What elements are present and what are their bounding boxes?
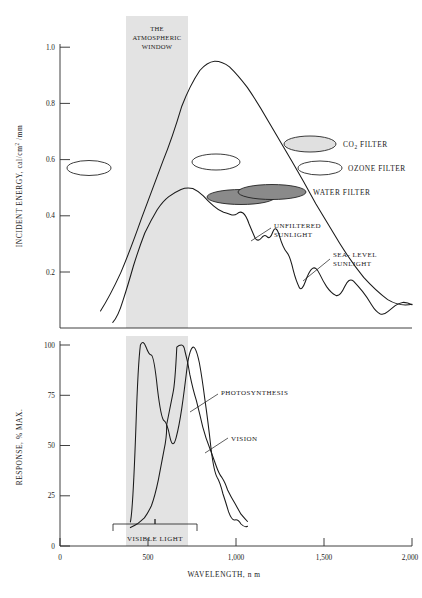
bottom-chart-y-axis-title: RESPONSE, % MAX. [15, 409, 24, 486]
xticklabel-1000: 1,000 [228, 553, 245, 562]
bottom-chart-yticklabel-0: 0 [51, 542, 55, 551]
bottom-chart-yticklabel-50: 50 [48, 441, 56, 450]
ozone-filter-swatch [298, 161, 342, 175]
top-chart-axes: 1.0 0.8 0.6 0.4 0.2 INCIDENT ENERGY, cal… [14, 43, 412, 328]
xticklabel-2000: 2,000 [402, 553, 419, 562]
sea-level-sunlight-leader [303, 259, 330, 281]
top-chart-yticklabel-0.4: 0.4 [46, 211, 55, 220]
top-chart-y-axis-title: INCIDENT ENERGY, cal/cm2 /mm [14, 125, 24, 247]
bottom-chart-axes: 100 75 50 25 0 RESPONSE, % MAX. 0 500 1,… [15, 341, 419, 579]
top-chart-yticklabel-0.2: 0.2 [46, 268, 55, 277]
solar-spectrum-and-biological-response-chart: THE ATMOSPHERIC WINDOW 1.0 0.8 0.6 0.4 0… [0, 0, 422, 598]
atmospheric-window-title-line-1: THE [150, 25, 164, 32]
xticklabel-1500: 1,500 [316, 553, 333, 562]
x-axis-title: WAVELENGTH, n m [187, 570, 260, 579]
scientific-figure: THE ATMOSPHERIC WINDOW 1.0 0.8 0.6 0.4 0… [0, 0, 422, 598]
co2-filter-label: CO2 FILTER [343, 140, 388, 150]
atmospheric-window-title-line-3: WINDOW [142, 43, 173, 50]
vision-label: VISION [231, 435, 257, 443]
top-chart-yticklabel-1.0: 1.0 [46, 43, 55, 52]
ozone-filter-label: OZONE FILTER [348, 164, 406, 173]
water-filter-label: WATER FILTER [313, 188, 370, 197]
visible-light-label: VISIBLE LIGHT [127, 535, 183, 543]
photosynthesis-label: PHOTOSYNTHESIS [221, 389, 288, 397]
filter-legend: CO2 FILTER OZONE FILTER WATER FILTER [238, 136, 406, 200]
xticklabel-500: 500 [143, 553, 154, 562]
atmospheric-window-band-top [126, 16, 188, 328]
top-chart-yticklabel-0.6: 0.6 [46, 155, 55, 164]
bottom-chart-yticklabel-25: 25 [48, 491, 56, 500]
co2-filter-swatch [284, 136, 336, 152]
atmospheric-window-title-line-2: ATMOSPHERIC [132, 34, 181, 41]
unfiltered-sunlight-label-line-1: UNFILTERED [274, 222, 321, 230]
ozone-filter-ellipse-on-curve-2 [192, 154, 240, 170]
sea-level-sunlight-label-line-1: SEA- LEVEL [333, 251, 377, 259]
bottom-chart-yticklabel-75: 75 [48, 391, 56, 400]
xticklabel-0: 0 [58, 553, 62, 562]
top-chart-yticklabel-0.8: 0.8 [46, 99, 55, 108]
sea-level-sunlight-label-line-2: SUNLIGHT [333, 260, 372, 268]
bottom-chart-yticklabel-100: 100 [44, 341, 55, 350]
ozone-filter-ellipse-on-curve [67, 161, 111, 176]
water-filter-swatch [238, 185, 306, 200]
unfiltered-sunlight-label-line-2: SUNLIGHT [274, 231, 313, 239]
